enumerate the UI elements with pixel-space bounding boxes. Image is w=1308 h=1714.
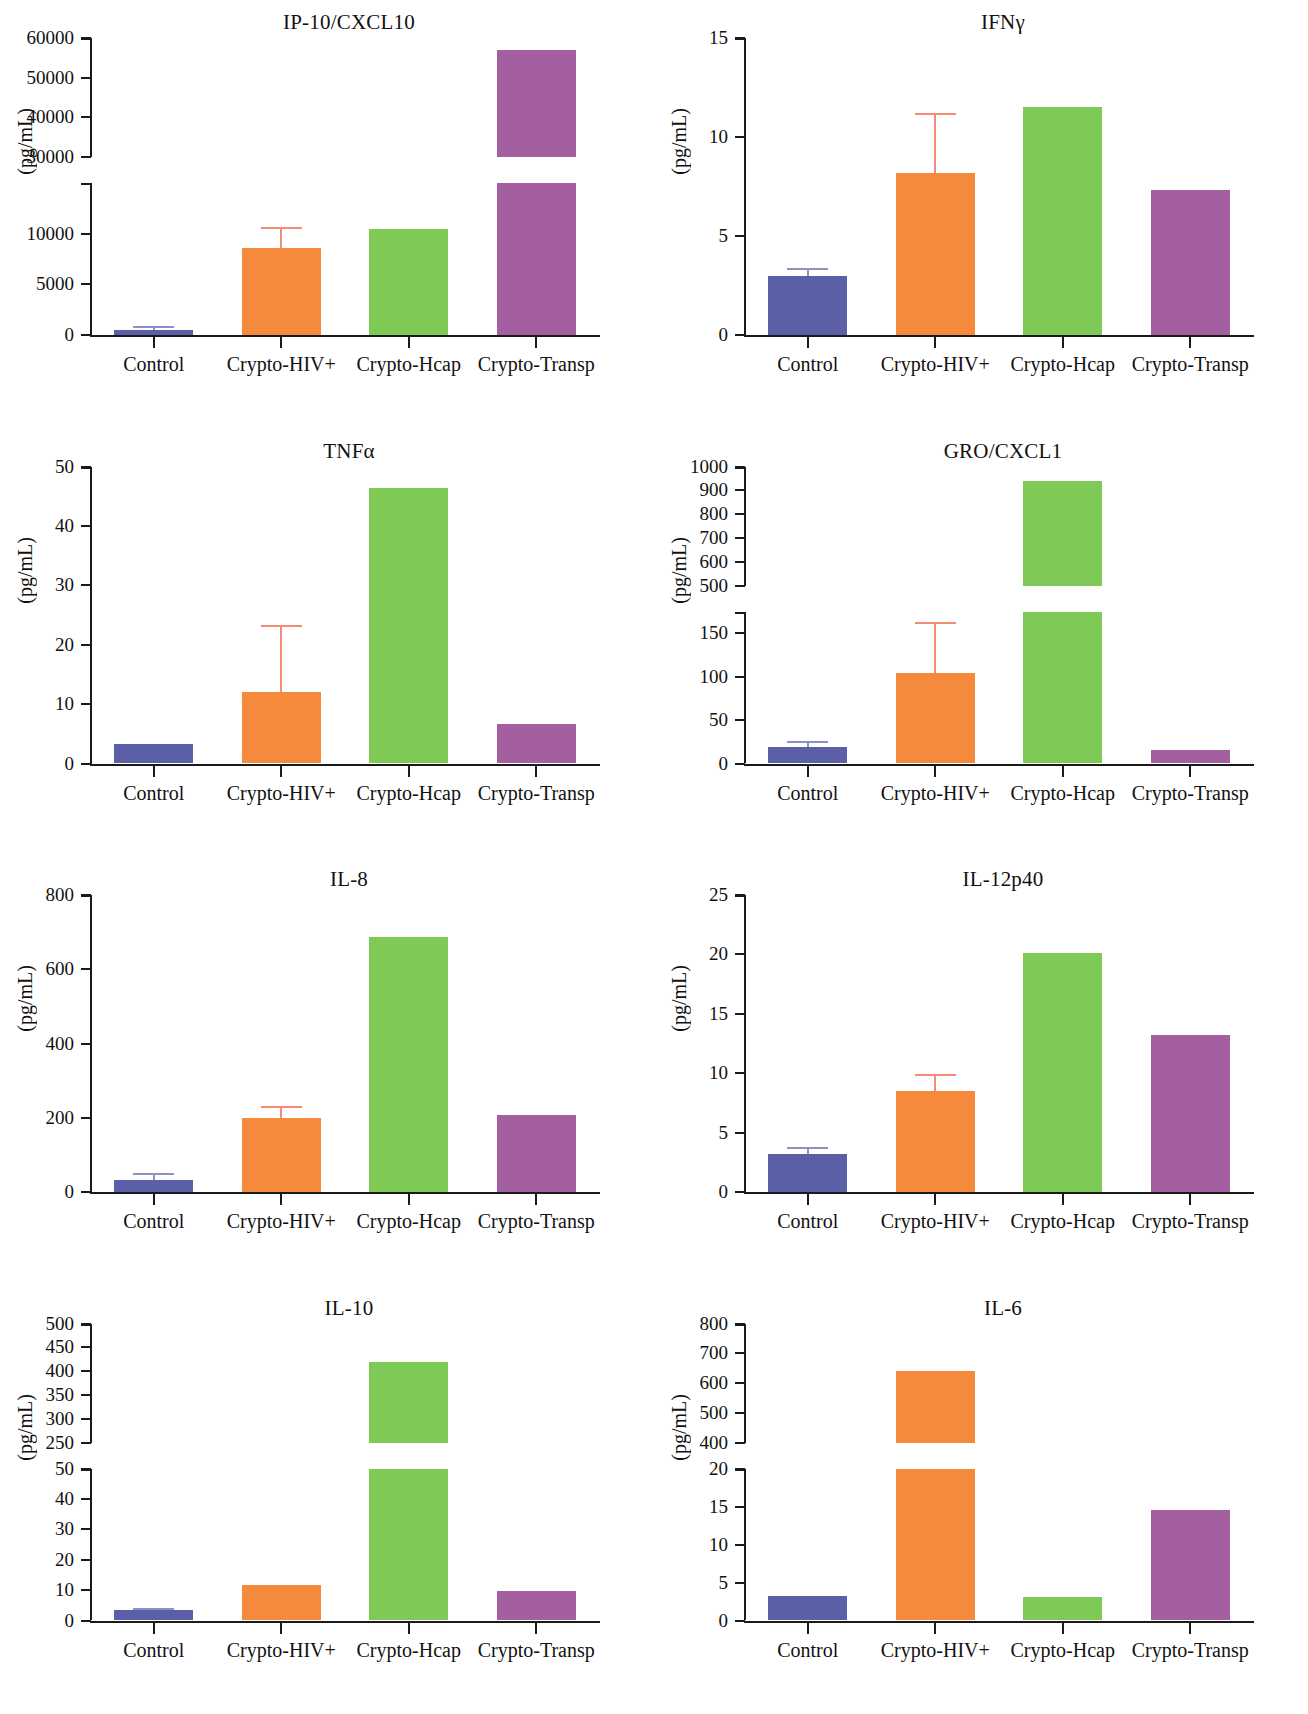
y-axis-tick: [81, 334, 91, 336]
chart-panel-il-8: IL-8(pg/mL)0200400600800ControlCrypto-HI…: [0, 857, 654, 1286]
y-axis-spine: [90, 38, 92, 157]
x-axis-label-crypto-transp: Crypto-Transp: [1115, 782, 1267, 805]
y-axis-tick: [735, 513, 745, 515]
x-axis-tick: [153, 337, 155, 348]
chart-title-text: IL-10: [325, 1296, 374, 1321]
bar-crypto-hiv--lower: [896, 1469, 975, 1621]
y-axis-tick-label: 15: [654, 1497, 728, 1516]
y-axis-tick-label: 50: [0, 457, 74, 476]
y-axis-tick-label: 20: [0, 635, 74, 654]
chart-title-text: GRO/CXCL1: [944, 439, 1062, 464]
y-axis-tick-label: 0: [0, 1611, 74, 1630]
x-axis-line: [744, 1192, 1254, 1194]
y-axis-tick: [735, 676, 745, 678]
y-axis-spine: [744, 612, 746, 764]
bar-control: [768, 1154, 847, 1192]
y-axis-spine: [90, 183, 92, 335]
y-axis-tick: [81, 37, 91, 39]
bar-crypto-hcap: [1023, 953, 1102, 1192]
y-axis-tick-label: 0: [654, 754, 728, 773]
y-axis-tick: [735, 489, 745, 491]
y-axis-tick: [735, 1072, 745, 1074]
y-axis-tick-label: 10000: [0, 224, 74, 243]
chart-panel-il-6: IL-6(pg/mL)05101520400500600700800Contro…: [654, 1286, 1308, 1714]
y-axis-tick-label: 350: [0, 1385, 74, 1404]
chart-title-text: TNFα: [323, 439, 374, 464]
bar-control: [114, 744, 193, 763]
y-axis-tick: [735, 1582, 745, 1584]
y-axis-tick-label: 30: [0, 1519, 74, 1538]
y-axis-tick-label: 0: [654, 1182, 728, 1201]
y-axis-tick-label: 800: [654, 504, 728, 523]
y-axis-tick-label: 0: [654, 325, 728, 344]
y-axis-tick-label: 10: [654, 127, 728, 146]
y-axis-spine: [744, 38, 746, 335]
chart-title: IL-6: [654, 1296, 1308, 1321]
x-axis-line: [90, 335, 600, 337]
y-axis-spine: [744, 467, 746, 586]
x-axis-tick: [408, 1623, 410, 1634]
x-axis-label-crypto-transp: Crypto-Transp: [461, 782, 613, 805]
y-axis-tick: [81, 1043, 91, 1045]
y-axis-tick: [81, 1370, 91, 1372]
y-axis-tick-label: 10: [654, 1063, 728, 1082]
chart-panel-tnf-: TNFα(pg/mL)01020304050ControlCrypto-HIV+…: [0, 429, 654, 858]
y-axis-tick-label: 50000: [0, 68, 74, 87]
x-axis-tick: [1189, 1194, 1191, 1205]
y-axis-tick: [735, 719, 745, 721]
error-bar-cap: [133, 1608, 174, 1610]
y-axis-tick-label: 500: [654, 576, 728, 595]
y-axis-tick: [735, 894, 745, 896]
bar-crypto-transp: [497, 1591, 576, 1620]
y-axis-tick: [735, 235, 745, 237]
error-bar-cap: [133, 1173, 174, 1175]
chart-title: IL-12p40: [654, 867, 1308, 892]
y-axis-tick: [735, 1191, 745, 1193]
bar-crypto-hiv-: [242, 1118, 321, 1192]
error-bar-stem: [280, 625, 282, 692]
chart-panel-ifn-: IFNγ(pg/mL)051015ControlCrypto-HIV+Crypt…: [654, 0, 1308, 429]
bar-crypto-hcap: [369, 488, 448, 763]
y-axis-tick: [735, 763, 745, 765]
x-axis-label-crypto-transp: Crypto-Transp: [461, 1210, 613, 1233]
y-axis-tick-label: 450: [0, 1337, 74, 1356]
y-axis-tick: [735, 537, 745, 539]
bar-control: [768, 1596, 847, 1620]
y-axis-tick: [81, 703, 91, 705]
y-axis-tick: [735, 1442, 745, 1444]
y-axis-tick: [81, 1346, 91, 1348]
error-bar-cap: [915, 622, 956, 624]
y-axis-tick-label: 10: [0, 1580, 74, 1599]
y-axis-tick-label: 5: [654, 1123, 728, 1142]
y-axis-segment-cap: [81, 183, 91, 185]
y-axis-tick-label: 250: [0, 1433, 74, 1452]
bar-control: [768, 747, 847, 763]
x-axis-line: [744, 1621, 1254, 1623]
y-axis-tick: [735, 585, 745, 587]
chart-title: IL-10: [0, 1296, 654, 1321]
x-axis-tick: [934, 337, 936, 348]
y-axis-tick: [735, 466, 745, 468]
y-axis-tick: [81, 644, 91, 646]
chart-title: IP-10/CXCL10: [0, 10, 654, 35]
bar-crypto-transp: [497, 724, 576, 764]
y-axis-tick-label: 400: [0, 1034, 74, 1053]
bar-crypto-hcap-upper: [1023, 481, 1102, 586]
y-axis-tick: [735, 1382, 745, 1384]
y-axis-segment-cap: [735, 612, 745, 614]
x-axis-tick: [1189, 766, 1191, 777]
bar-crypto-transp: [1151, 750, 1230, 764]
chart-title-text: IL-6: [984, 1296, 1022, 1321]
y-axis-tick: [735, 1468, 745, 1470]
y-axis-tick-label: 0: [0, 754, 74, 773]
y-axis-tick-label: 700: [654, 1343, 728, 1362]
error-bar-cap: [133, 326, 174, 328]
y-axis-tick-label: 5: [654, 1573, 728, 1592]
bar-control: [114, 1610, 193, 1620]
x-axis-label-crypto-transp: Crypto-Transp: [1115, 353, 1267, 376]
y-axis-tick-label: 40: [0, 1489, 74, 1508]
error-bar-cap: [261, 227, 302, 229]
error-bar-cap: [261, 625, 302, 627]
bar-control: [114, 1180, 193, 1192]
y-axis-spine: [744, 895, 746, 1192]
